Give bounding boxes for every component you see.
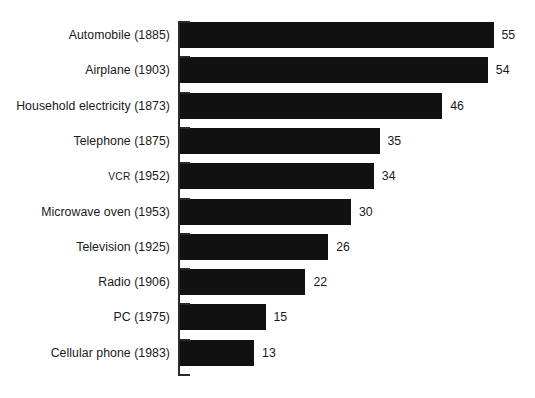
bar-value-telephone: 35 [388,128,402,154]
table-row: VCR (1952) 34 [0,162,535,197]
axis-tick [178,127,190,129]
axis-tick [178,21,190,23]
bar-value-microwave-oven: 30 [359,199,373,225]
table-row: Cellular phone (1983) 13 [0,339,535,374]
axis-tick [178,162,190,164]
axis-tick [178,374,190,376]
axis-tick [178,233,190,235]
bar-value-airplane: 54 [496,57,510,83]
axis-tick [178,56,190,58]
category-label-household-electricity: Household electricity (1873) [0,93,170,119]
table-row: Airplane (1903) 54 [0,56,535,91]
table-row: Radio (1906) 22 [0,268,535,303]
bar-value-pc: 15 [274,304,288,330]
category-label-vcr: VCR (1952) [0,163,170,190]
table-row: Television (1925) 26 [0,233,535,268]
bar-value-television: 26 [336,234,350,260]
axis-tick [178,198,190,200]
axis-tick [178,339,190,341]
bar-telephone [180,128,380,154]
category-label-airplane: Airplane (1903) [0,57,170,83]
bar-radio [180,269,305,295]
category-label-automobile: Automobile (1885) [0,22,170,48]
axis-tick [178,303,190,305]
axis-tick [178,92,190,94]
bar-value-cellular-phone: 13 [262,340,276,366]
category-label-microwave-oven: Microwave oven (1953) [0,199,170,225]
bar-chart-figure: Automobile (1885) 55 Airplane (1903) 54 … [0,0,535,398]
category-label-vcr-acronym: VCR [108,171,130,182]
bar-vcr [180,163,374,189]
table-row: Telephone (1875) 35 [0,127,535,162]
bar-pc [180,304,266,330]
category-label-television: Television (1925) [0,234,170,260]
plot-area: Automobile (1885) 55 Airplane (1903) 54 … [0,0,535,398]
table-row: Household electricity (1873) 46 [0,92,535,127]
category-label-telephone: Telephone (1875) [0,128,170,154]
table-row: Microwave oven (1953) 30 [0,198,535,233]
bar-cellular-phone [180,340,254,366]
axis-tick [178,268,190,270]
bar-value-household-electricity: 46 [450,93,464,119]
bar-television [180,234,328,260]
bar-value-automobile: 55 [502,22,516,48]
category-label-pc: PC (1975) [0,304,170,330]
bar-automobile [180,22,494,48]
category-label-vcr-year: (1952) [131,169,170,183]
bar-microwave-oven [180,199,351,225]
bar-value-vcr: 34 [382,163,396,189]
bar-household-electricity [180,93,442,119]
bar-value-radio: 22 [313,269,327,295]
category-label-radio: Radio (1906) [0,269,170,295]
table-row: Automobile (1885) 55 [0,21,535,56]
category-label-cellular-phone: Cellular phone (1983) [0,340,170,366]
bar-airplane [180,57,488,83]
table-row: PC (1975) 15 [0,303,535,338]
